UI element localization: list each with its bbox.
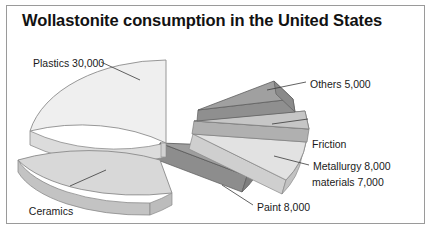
slice-label-friction-line2: materials 7,000 xyxy=(312,176,384,189)
slice-label-ceramics-line1: Ceramics xyxy=(18,205,84,218)
slice-label-plastics: Plastics 30,000 xyxy=(33,57,104,70)
slice-label-others: Others 5,000 xyxy=(310,78,371,91)
slice-label-ceramics: Ceramics 22,000 xyxy=(18,180,84,231)
chart-figure: Wollastonite consumption in the United S… xyxy=(0,0,433,231)
slice-label-friction-line1: Friction xyxy=(312,138,384,151)
slice-label-paint: Paint 8,000 xyxy=(257,201,310,214)
pie-slice-plastics[interactable] xyxy=(30,60,166,163)
slice-label-metallurgy: Metallurgy 8,000 xyxy=(313,160,391,173)
